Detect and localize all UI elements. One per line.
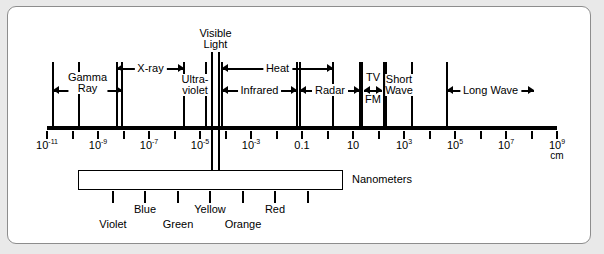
axis-tick <box>429 131 431 139</box>
band-arrow-left <box>222 64 228 72</box>
axis-tick <box>148 131 150 139</box>
band-arrow-right <box>291 86 297 94</box>
axis-tick <box>97 131 99 139</box>
axis-tick <box>556 131 558 139</box>
axis-tick <box>301 131 303 139</box>
band-arrow-left <box>222 86 228 94</box>
nanometer-bar <box>78 170 343 190</box>
axis-tick-label: 0.1 <box>294 139 309 151</box>
visible-light-label: VisibleLight <box>199 28 231 50</box>
color-label-red: Red <box>265 203 285 215</box>
axis-tick <box>327 131 329 139</box>
band-divider <box>361 62 363 126</box>
axis-tick-label: 10-3 <box>242 139 260 151</box>
axis-tick <box>276 131 278 139</box>
band-heat: Heat <box>222 62 333 74</box>
axis-tick-label: 10-7 <box>140 139 158 151</box>
band-arrow-left <box>117 64 123 72</box>
band-ultraviolet-label: Ultra-violet <box>182 74 209 96</box>
axis-tick <box>174 131 176 139</box>
axis-tick <box>250 131 252 139</box>
axis-tick <box>199 131 201 139</box>
nanometer-tick <box>177 191 179 203</box>
axis-tick-label: 10-11 <box>36 139 58 151</box>
band-x-ray: X-ray <box>117 62 184 74</box>
band-radar: Radar <box>300 84 360 96</box>
nanometer-tick <box>144 191 146 203</box>
axis-tick <box>480 131 482 139</box>
band-infrared: Infrared <box>222 84 297 96</box>
nanometer-tick <box>112 191 114 203</box>
band-arrow-left <box>53 86 59 94</box>
band-arrow-right <box>178 64 184 72</box>
axis-tick-label: 105 <box>447 139 463 151</box>
color-label-yellow: Yellow <box>194 203 225 215</box>
band-label: Radar <box>312 84 348 96</box>
axis-tick-label: 10-9 <box>89 139 107 151</box>
axis-tick-label: 103 <box>396 139 412 151</box>
axis-tick <box>72 131 74 139</box>
band-arrow-right <box>528 86 534 94</box>
band-label: Heat <box>263 62 292 74</box>
color-label-violet: Violet <box>99 218 126 230</box>
wavelength-axis <box>47 126 557 130</box>
nanometer-tick <box>274 191 276 203</box>
band-tv-label: TV <box>366 72 380 83</box>
axis-tick-label: 10 <box>347 139 359 151</box>
axis-tick <box>378 131 380 139</box>
band-short-wave-label: ShortWave <box>385 74 413 96</box>
nanometer-tick <box>209 191 211 203</box>
axis-tick <box>225 131 227 139</box>
band-arrow-left <box>300 86 306 94</box>
axis-tick <box>531 131 533 139</box>
axis-unit-label: cm <box>550 150 563 161</box>
band-label: Infrared <box>238 84 282 96</box>
axis-tick <box>454 131 456 139</box>
spectrum-diagram: 10-1110-910-710-510-30.110103105107109Ga… <box>0 0 604 254</box>
band-label: Long Wave <box>460 84 521 96</box>
color-label-orange: Orange <box>225 218 262 230</box>
color-label-green: Green <box>163 218 194 230</box>
nanometer-tick <box>242 191 244 203</box>
visible-light-guide <box>211 52 213 126</box>
band-long-wave: Long Wave <box>447 84 534 96</box>
visible-light-connector <box>211 126 213 170</box>
axis-tick <box>123 131 125 139</box>
axis-tick-label: 10-5 <box>191 139 209 151</box>
axis-tick <box>352 131 354 139</box>
band-arrow-right <box>354 86 360 94</box>
axis-tick <box>403 131 405 139</box>
nanometer-tick <box>307 191 309 203</box>
band-gamma-ray-label: GammaRay <box>68 72 107 94</box>
visible-light-connector <box>218 126 220 170</box>
band-fm-label: FM <box>365 94 381 105</box>
axis-tick-label: 107 <box>498 139 514 151</box>
visible-light-guide <box>218 52 220 126</box>
band-arrow-left <box>447 86 453 94</box>
nanometer-unit-label: Nanometers <box>352 173 412 185</box>
band-arrow-right <box>116 86 122 94</box>
band-label: X-ray <box>134 62 166 74</box>
axis-tick <box>505 131 507 139</box>
color-label-blue: Blue <box>134 203 156 215</box>
band-arrow-right <box>327 64 333 72</box>
